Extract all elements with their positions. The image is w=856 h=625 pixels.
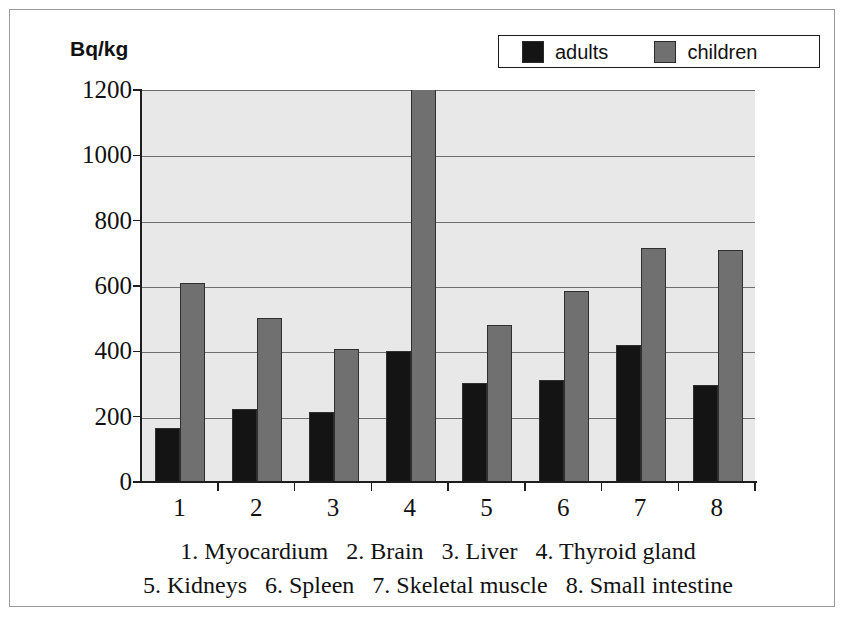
y-axis-tick-mark — [133, 155, 142, 157]
x-axis-tick-label-3: 3 — [313, 494, 353, 522]
bar-adults-1 — [155, 428, 180, 482]
legend-label-children: children — [687, 42, 757, 62]
x-axis-tick-label-7: 7 — [620, 494, 660, 522]
y-axis-tick-mark — [133, 351, 142, 353]
bar-adults-6 — [539, 380, 564, 482]
y-axis-tick-label: 1200 — [70, 76, 132, 104]
legend-item-children: children — [654, 41, 757, 63]
y-axis-tick-label: 200 — [70, 403, 132, 431]
x-axis-tick-mark — [371, 482, 373, 491]
bar-adults-3 — [309, 412, 334, 482]
bar-adults-4 — [386, 351, 411, 482]
y-axis-tick-labels: 020040060080010001200 — [68, 10, 132, 625]
y-axis-tick-mark — [133, 285, 142, 287]
x-axis-tick-label-4: 4 — [390, 494, 430, 522]
legend-swatch-adults — [522, 41, 544, 63]
bar-children-2 — [257, 318, 282, 482]
y-axis-tick-label: 800 — [70, 207, 132, 235]
x-axis-tick-mark — [294, 482, 296, 491]
x-axis-line — [141, 481, 757, 483]
bar-children-7 — [641, 248, 666, 482]
y-axis-tick-mark — [133, 220, 142, 222]
x-axis-tick-mark — [217, 482, 219, 491]
bar-children-5 — [487, 325, 512, 482]
bar-children-3 — [334, 349, 359, 482]
y-axis-tick-mark — [133, 481, 142, 483]
x-axis-tick-label-8: 8 — [697, 494, 737, 522]
caption-line-2: 5. Kidneys 6. Spleen 7. Skeletal muscle … — [10, 568, 856, 602]
legend-label-adults: adults — [555, 42, 608, 62]
y-axis-tick-label: 400 — [70, 337, 132, 365]
y-axis-tick-mark — [133, 416, 142, 418]
y-axis-tick-mark — [133, 89, 142, 91]
gridline — [142, 222, 755, 223]
legend-swatch-children — [654, 41, 676, 63]
x-axis-tick-mark — [601, 482, 603, 491]
bar-children-4 — [411, 90, 436, 482]
bar-children-8 — [718, 250, 743, 482]
x-axis-tick-label-1: 1 — [159, 494, 199, 522]
chart-legend: adults children — [498, 35, 820, 68]
caption-line-1: 1. Myocardium 2. Brain 3. Liver 4. Thyro… — [10, 534, 856, 568]
figure-caption: 1. Myocardium 2. Brain 3. Liver 4. Thyro… — [10, 534, 856, 602]
figure-frame: Bq/kg adults children 020040060080010001… — [9, 9, 835, 607]
y-axis-tick-label: 0 — [70, 468, 132, 496]
x-axis-tick-label-5: 5 — [466, 494, 506, 522]
bar-children-1 — [180, 283, 205, 482]
plot-area — [141, 90, 755, 482]
bar-adults-8 — [693, 385, 718, 482]
gridline — [142, 156, 755, 157]
x-axis-tick-mark — [754, 482, 756, 491]
x-axis-tick-label-6: 6 — [543, 494, 583, 522]
x-axis-tick-mark — [524, 482, 526, 491]
x-axis-tick-label-2: 2 — [236, 494, 276, 522]
bar-children-6 — [564, 291, 589, 482]
bar-adults-2 — [232, 409, 257, 482]
y-axis-tick-label: 600 — [70, 272, 132, 300]
x-axis-tick-mark — [447, 482, 449, 491]
bar-adults-7 — [616, 345, 641, 482]
bar-adults-5 — [462, 383, 487, 482]
legend-item-adults: adults — [522, 41, 608, 63]
x-axis-tick-mark — [678, 482, 680, 491]
y-axis-tick-label: 1000 — [70, 141, 132, 169]
